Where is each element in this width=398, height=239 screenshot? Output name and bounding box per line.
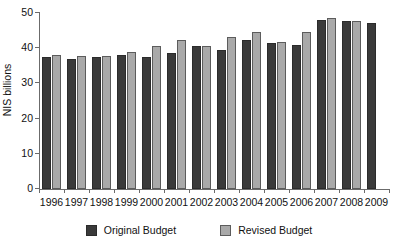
bar-revised-2008 bbox=[352, 21, 361, 189]
x-tick-mark bbox=[114, 189, 115, 193]
x-tick-mark bbox=[364, 189, 365, 193]
x-tick-label-2002: 2002 bbox=[189, 196, 214, 209]
y-tick-label: 50 bbox=[21, 6, 33, 19]
y-tick-label: 30 bbox=[21, 76, 33, 89]
y-tick-label: 0 bbox=[27, 182, 33, 195]
bar-original-2000 bbox=[142, 57, 151, 189]
bar-original-2005 bbox=[267, 43, 276, 189]
bar-revised-1999 bbox=[127, 52, 136, 189]
x-tick-mark bbox=[289, 189, 290, 193]
bar-group-1998 bbox=[89, 13, 114, 189]
bar-groups bbox=[39, 13, 389, 189]
x-axis-ticks bbox=[39, 189, 389, 194]
bar-original-1997 bbox=[67, 59, 76, 189]
y-tick-label: 10 bbox=[21, 147, 33, 160]
bar-original-1996 bbox=[42, 57, 51, 189]
x-tick-label-2006: 2006 bbox=[289, 196, 314, 209]
bar-revised-2002 bbox=[202, 46, 211, 189]
bar-group-1997 bbox=[64, 13, 89, 189]
y-axis-title: NIS billions bbox=[1, 35, 13, 145]
x-tick-label-2001: 2001 bbox=[164, 196, 189, 209]
x-tick-mark bbox=[389, 189, 390, 193]
x-tick-mark bbox=[214, 189, 215, 193]
bar-revised-2003 bbox=[227, 37, 236, 189]
x-tick-label-2003: 2003 bbox=[214, 196, 239, 209]
bar-group-1999 bbox=[114, 13, 139, 189]
x-tick-mark bbox=[314, 189, 315, 193]
y-tick-label: 20 bbox=[21, 112, 33, 125]
x-tick-mark bbox=[339, 189, 340, 193]
bar-group-2001 bbox=[164, 13, 189, 189]
x-tick-mark bbox=[264, 189, 265, 193]
legend-label: Original Budget bbox=[104, 224, 176, 237]
bar-revised-2000 bbox=[152, 46, 161, 189]
x-tick-mark bbox=[39, 189, 40, 193]
bar-revised-2006 bbox=[302, 32, 311, 189]
x-tick-mark bbox=[189, 189, 190, 193]
bar-revised-2004 bbox=[252, 32, 261, 189]
x-tick-label-2000: 2000 bbox=[139, 196, 164, 209]
x-tick-label-2004: 2004 bbox=[239, 196, 264, 209]
x-tick-mark bbox=[164, 189, 165, 193]
bar-group-2003 bbox=[214, 13, 239, 189]
x-tick-label-2009: 2009 bbox=[364, 196, 389, 209]
bar-group-2004 bbox=[239, 13, 264, 189]
bar-original-2009 bbox=[367, 23, 376, 189]
bar-original-2002 bbox=[192, 46, 201, 189]
bar-group-2008 bbox=[339, 13, 364, 189]
bar-revised-2007 bbox=[327, 18, 336, 189]
x-tick-label-1997: 1997 bbox=[64, 196, 89, 209]
bar-chart: NIS billions 01020304050 199619971998199… bbox=[0, 0, 398, 239]
bar-original-1998 bbox=[92, 57, 101, 189]
bar-group-2005 bbox=[264, 13, 289, 189]
legend-item-revised-budget[interactable]: Revised Budget bbox=[220, 224, 312, 237]
bar-original-2001 bbox=[167, 53, 176, 189]
bar-group-2002 bbox=[189, 13, 214, 189]
x-tick-label-1999: 1999 bbox=[114, 196, 139, 209]
bar-group-2007 bbox=[314, 13, 339, 189]
bar-original-2003 bbox=[217, 50, 226, 189]
x-tick-mark bbox=[89, 189, 90, 193]
legend-swatch-icon bbox=[86, 225, 97, 236]
legend-label: Revised Budget bbox=[238, 224, 312, 237]
y-tick-label: 40 bbox=[21, 41, 33, 54]
bar-revised-1997 bbox=[77, 56, 86, 189]
x-tick-mark bbox=[139, 189, 140, 193]
bar-group-2006 bbox=[289, 13, 314, 189]
bar-original-1999 bbox=[117, 55, 126, 189]
bar-revised-1996 bbox=[52, 55, 61, 189]
bar-group-1996 bbox=[39, 13, 64, 189]
x-tick-label-2007: 2007 bbox=[314, 196, 339, 209]
x-tick-mark bbox=[64, 189, 65, 193]
x-tick-label-2005: 2005 bbox=[264, 196, 289, 209]
x-tick-label-2008: 2008 bbox=[339, 196, 364, 209]
bar-revised-1998 bbox=[102, 56, 111, 189]
bar-original-2006 bbox=[292, 45, 301, 189]
x-tick-mark bbox=[239, 189, 240, 193]
chart-legend: Original BudgetRevised Budget bbox=[0, 222, 398, 238]
bar-original-2004 bbox=[242, 40, 251, 189]
bar-revised-2001 bbox=[177, 40, 186, 189]
legend-swatch-icon bbox=[220, 225, 231, 236]
legend-item-original-budget[interactable]: Original Budget bbox=[86, 224, 176, 237]
bar-revised-2005 bbox=[277, 42, 286, 189]
bar-group-2000 bbox=[139, 13, 164, 189]
x-tick-label-1996: 1996 bbox=[39, 196, 64, 209]
x-tick-label-1998: 1998 bbox=[89, 196, 114, 209]
bar-original-2008 bbox=[342, 21, 351, 189]
x-axis-labels: 1996199719981999200020012002200320042005… bbox=[0, 196, 398, 210]
bar-group-2009 bbox=[364, 13, 389, 189]
bar-original-2007 bbox=[317, 20, 326, 189]
